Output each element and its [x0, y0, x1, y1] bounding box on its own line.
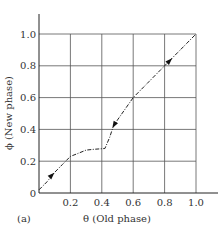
- x-tick-label: 0.6: [125, 197, 141, 208]
- y-tick-label: 1.0: [20, 29, 36, 40]
- grid-lines: [39, 34, 196, 193]
- y-tick-labels: 00.20.40.60.81.0: [20, 29, 36, 199]
- phase-map-chart: 0.20.40.60.81.0 00.20.40.60.81.0 θ (Old …: [0, 0, 218, 235]
- x-tick-labels: 0.20.40.60.81.0: [62, 197, 204, 208]
- y-tick-label: 0.4: [20, 124, 36, 135]
- y-tick-label: 0.8: [20, 60, 36, 71]
- arrow-head-icon: [48, 171, 56, 179]
- y-tick-label: 0.6: [20, 92, 36, 103]
- phase-curve: [39, 34, 196, 190]
- x-tick-label: 1.0: [188, 197, 204, 208]
- panel-label: (a): [17, 213, 31, 224]
- x-axis-label: θ (Old phase): [83, 213, 151, 224]
- y-tick-label: 0.2: [20, 156, 36, 167]
- y-axis-label: ϕ (New phase): [3, 76, 14, 150]
- arrow-head-icon: [110, 121, 118, 130]
- x-tick-label: 0.2: [62, 197, 78, 208]
- arrow-head-icon: [165, 56, 173, 64]
- y-tick-label: 0: [30, 188, 36, 199]
- axes: [39, 14, 218, 193]
- x-tick-label: 0.8: [157, 197, 173, 208]
- x-tick-label: 0.4: [94, 197, 110, 208]
